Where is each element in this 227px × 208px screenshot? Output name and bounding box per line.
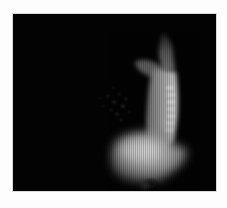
image-frame <box>0 0 227 208</box>
volume-render-graphic <box>13 14 216 191</box>
scan-striping <box>108 29 198 191</box>
scan-image-panel <box>13 14 216 191</box>
